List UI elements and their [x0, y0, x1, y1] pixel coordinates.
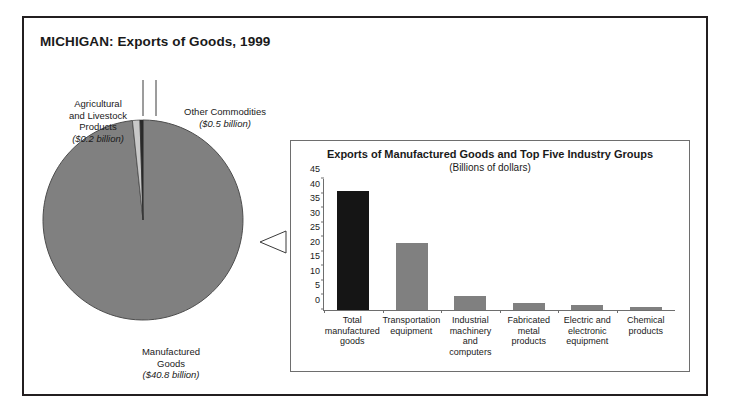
x-axis-label-line: electronic [568, 326, 607, 336]
y-axis-tick-label: 25 [310, 222, 320, 232]
x-axis-label: Industrialmachinery andcomputers [441, 315, 499, 357]
pie-label-agricultural: Agricultural and Livestock Products ($0.… [50, 98, 146, 144]
pie-slices [43, 120, 243, 320]
bar-series [324, 179, 675, 310]
x-axis-label-line: goods [340, 336, 365, 346]
bar-transportation-equipment[interactable] [396, 243, 428, 310]
pie-label-other-name: Other Commodities [184, 106, 266, 117]
y-axis-tick-label: 0 [315, 295, 320, 305]
x-axis-tick-mark [558, 310, 559, 313]
pie-label-other: Other Commodities ($0.5 billion) [162, 106, 288, 129]
x-axis-label: Chemicalproducts [617, 315, 675, 357]
bar-total-manufactured-goods[interactable] [337, 191, 369, 310]
bar-slot [500, 179, 559, 310]
figure-frame: MICHIGAN: Exports of Goods, 1999 Agricul… [22, 16, 708, 396]
bar-electric-and-electronic-equipment[interactable] [571, 305, 603, 310]
x-axis-label-line: Transportation [382, 315, 440, 325]
x-axis-label: Fabricatedmetal products [500, 315, 558, 357]
bar-chart-plot-area: 051015202530354045 [323, 179, 675, 311]
pie-chart-section: Agricultural and Livestock Products ($0.… [40, 58, 308, 388]
x-axis-label-line: computers [449, 347, 491, 357]
x-axis-label-line: Fabricated [508, 315, 551, 325]
y-axis-tick-label: 35 [310, 193, 320, 203]
x-axis-label-line: Total [343, 315, 362, 325]
bar-slot [558, 179, 617, 310]
y-axis-tick-label: 15 [310, 251, 320, 261]
bar-fabricated-metal-products[interactable] [513, 303, 545, 310]
y-axis-tick-label: 30 [310, 208, 320, 218]
bar-slot [383, 179, 442, 310]
x-axis-tick-mark [500, 310, 501, 313]
x-axis-label: Totalmanufacturedgoods [323, 315, 381, 357]
y-axis-tick-label: 10 [310, 266, 320, 276]
bar-chemical-products[interactable] [630, 307, 662, 310]
x-axis-label-line: equipment [390, 326, 432, 336]
x-axis-label-line: Chemical [627, 315, 665, 325]
y-axis-tick-label: 5 [315, 280, 320, 290]
bar-chart-panel: Exports of Manufactured Goods and Top Fi… [290, 140, 690, 372]
x-axis-label: Transportationequipment [381, 315, 441, 357]
pie-label-manufactured: Manufactured Goods ($40.8 billion) [96, 346, 246, 381]
y-axis-tick-label: 40 [310, 179, 320, 189]
x-axis-tick-mark [441, 310, 442, 313]
x-axis-tick-mark [324, 310, 325, 313]
bar-chart-title: Exports of Manufactured Goods and Top Fi… [291, 148, 689, 160]
pie-label-manufactured-line1: Manufactured [142, 346, 200, 357]
bar-slot [324, 179, 383, 310]
x-axis-tick-mark [617, 310, 618, 313]
bar-slot [441, 179, 500, 310]
pie-label-manufactured-amount: ($40.8 billion) [96, 369, 246, 381]
x-axis-tick-mark [383, 310, 384, 313]
y-axis-tick-label: 20 [310, 237, 320, 247]
bar-industrial-machinery-and-computers[interactable] [454, 296, 486, 310]
pie-label-agricultural-line2: and Livestock [69, 110, 127, 121]
bar-chart-subtitle: (Billions of dollars) [291, 162, 689, 173]
x-axis-label: Electric andelectronicequipment [558, 315, 616, 357]
pie-label-agricultural-line1: Agricultural [74, 98, 122, 109]
x-axis-label-line: equipment [566, 336, 608, 346]
x-axis-label-line: Industrial [452, 315, 489, 325]
pie-label-agricultural-amount: ($0.2 billion) [50, 133, 146, 145]
y-axis-tick-label: 45 [310, 164, 320, 174]
pie-label-agricultural-line3: Products [79, 121, 117, 132]
x-axis-label-line: Electric and [564, 315, 611, 325]
x-axis-labels: TotalmanufacturedgoodsTransportationequi… [323, 315, 675, 357]
x-axis-label-line: manufactured [325, 326, 380, 336]
x-axis-label-line: metal products [512, 326, 547, 347]
bar-slot [617, 179, 676, 310]
page-title: MICHIGAN: Exports of Goods, 1999 [40, 34, 270, 49]
pie-label-manufactured-line2: Goods [157, 358, 185, 369]
x-axis-label-line: machinery and [450, 326, 492, 347]
pie-label-other-amount: ($0.5 billion) [162, 118, 288, 130]
x-axis-label-line: products [628, 326, 663, 336]
